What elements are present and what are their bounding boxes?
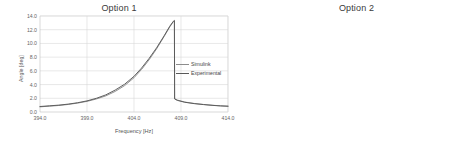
- y-axis-tick-label: 8.0: [10, 54, 37, 60]
- legend-swatch-simulink: [176, 64, 189, 65]
- y-axis-tick-label: 6.0: [10, 68, 37, 74]
- y-axis-tick-label: 10.0: [10, 40, 37, 46]
- chart-panel-option-1: Option 1 Angle [deg] Frequency [Hz] Simu…: [0, 0, 238, 146]
- legend-item-experimental: Experimental: [176, 69, 221, 78]
- y-axis-tick-label: 2.0: [10, 95, 37, 101]
- legend-label-experimental: Experimental: [191, 71, 221, 76]
- y-axis-tick-label: 4.0: [10, 82, 37, 88]
- legend-label-simulink: Simulink: [191, 62, 211, 67]
- y-axis-tick-label: 12.0: [10, 27, 37, 33]
- x-axis-label: Frequency [Hz]: [40, 128, 228, 134]
- x-axis-tick-label: 399.0: [81, 115, 94, 121]
- y-axis-tick-label: 14.0: [10, 13, 37, 19]
- legend: Simulink Experimental: [176, 60, 221, 78]
- x-axis-tick-label: 404.0: [128, 115, 141, 121]
- chart-panel-option-2: Option 2 Angle [deg] Frequency [Hz] Simu…: [238, 0, 475, 146]
- x-axis-tick-label: 394.0: [34, 115, 47, 121]
- chart-title: Option 1: [0, 3, 238, 13]
- figure-canvas: Option 1 Angle [deg] Frequency [Hz] Simu…: [0, 0, 475, 146]
- x-axis-tick-label: 409.0: [175, 115, 188, 121]
- chart-title: Option 2: [238, 3, 475, 13]
- legend-item-simulink: Simulink: [176, 60, 221, 69]
- x-axis-tick-label: 414.0: [222, 115, 235, 121]
- legend-swatch-experimental: [176, 73, 189, 74]
